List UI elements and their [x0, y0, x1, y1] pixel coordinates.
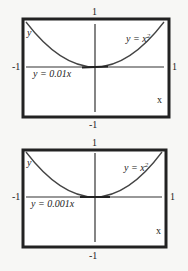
tick-right: 1	[170, 191, 175, 202]
x-axis-label: x	[157, 94, 162, 105]
x-axis-label: x	[156, 225, 161, 236]
tick-top: 1	[92, 137, 97, 148]
tick-bottom: -1	[89, 250, 97, 261]
chart-top: 1 -1 -1 1 y x y = x2 y = 0.01x	[0, 0, 188, 135]
label-linear: y = 0.01x	[32, 68, 72, 79]
tick-top: 1	[92, 6, 97, 17]
y-axis-label: y	[26, 157, 32, 168]
tick-left: -1	[12, 191, 20, 202]
line-0.01x	[82, 67, 108, 68]
label-linear: y = 0.001x	[30, 198, 75, 209]
tick-bottom: -1	[89, 119, 97, 130]
tick-left: -1	[12, 61, 20, 72]
y-axis-label: y	[26, 27, 32, 38]
tick-right: 1	[172, 61, 177, 72]
chart-bottom: 1 -1 -1 1 y x y = x2 y = 0.001x	[0, 135, 188, 271]
